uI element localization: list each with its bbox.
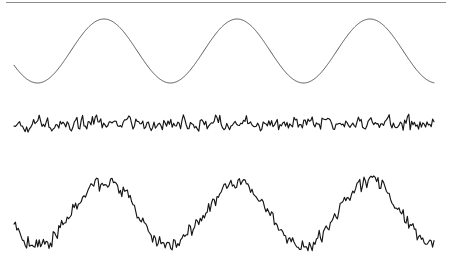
pure-noise-trace (14, 114, 434, 132)
signal-plot-canvas (0, 0, 449, 272)
signal-figure (0, 0, 449, 272)
sine-plus-noise-trace (14, 176, 434, 251)
clean-sine-wave-trace (14, 19, 434, 83)
